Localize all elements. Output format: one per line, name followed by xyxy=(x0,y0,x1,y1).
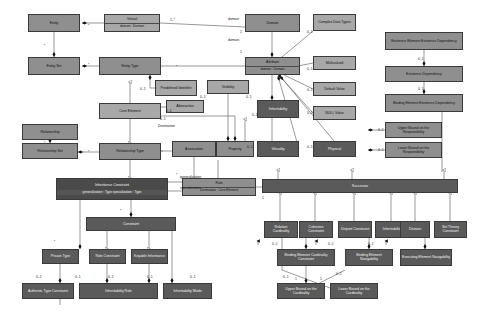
multiplicity-label: 0..1 xyxy=(140,87,146,91)
class-node-title: Inheritance Constraint xyxy=(57,183,167,188)
class-node-set-theory-constraint[interactable]: Set Theory Constraint xyxy=(434,221,467,238)
class-node-physical[interactable]: Physical xyxy=(313,141,356,157)
class-node-core-element[interactable]: Core Element xyxy=(99,103,161,119)
class-node-title: Cohesion Constraint xyxy=(300,225,332,234)
multiplicity-label: 0..1 xyxy=(272,242,278,246)
class-node-association[interactable]: Association xyxy=(172,141,216,157)
class-node-visibility[interactable]: Visibility xyxy=(207,80,249,94)
class-node-virtual[interactable]: Virtualdomain : Domain xyxy=(104,14,160,32)
class-node-multivalued[interactable]: Multivalued xyxy=(313,56,356,70)
class-node-default-value[interactable]: Default Value xyxy=(313,82,356,96)
class-node-title: Division xyxy=(401,227,429,232)
multiplicity-label: 0..1 xyxy=(307,88,313,92)
class-node-title: Relationship xyxy=(23,130,77,135)
multiplicity-label: 0..1 xyxy=(252,113,258,117)
class-node-complex-data-types[interactable]: Complex Data Types xyxy=(313,14,356,31)
class-node-title: Lower Bound on the Responsibility xyxy=(386,146,441,155)
edge-role-label: specialization xyxy=(180,186,200,190)
multiplicity-label: * xyxy=(54,240,55,244)
class-node-entity[interactable]: Entity xyxy=(28,14,80,32)
multiplicity-label: 0..1 xyxy=(247,145,253,149)
edge-role-label: domain xyxy=(228,38,239,42)
class-node-title: Entity Set xyxy=(29,64,79,69)
class-node-null-value[interactable]: NULL Value xyxy=(313,106,356,120)
class-node-relationship-type[interactable]: Relationship Type xyxy=(99,143,161,160)
class-node-relation-cardinality[interactable]: Relation Cardinality xyxy=(264,221,298,238)
class-node-binding-element-existence-dependency[interactable]: Binding Element Existence Dependency xyxy=(385,94,463,112)
class-node-title: Rule xyxy=(183,181,255,186)
multiplicity-label: 0..1 xyxy=(307,67,313,71)
class-node-title: Entity Type xyxy=(100,64,160,69)
class-node-title: Attribute xyxy=(246,60,299,65)
class-node-inheritability-role[interactable]: Inheritability Role xyxy=(79,283,158,299)
class-node-title: NULL Value xyxy=(314,111,355,116)
class-node-successor[interactable]: Successor xyxy=(262,179,458,193)
class-node-predefined-identifier[interactable]: Predefined Identifier xyxy=(155,80,197,96)
multiplicity-label: 1 xyxy=(240,50,242,54)
class-node-relationship-set[interactable]: Relationship Set xyxy=(22,143,78,159)
edge-role-label: domain xyxy=(228,17,239,21)
class-node-property[interactable]: Property xyxy=(216,141,254,157)
class-node-title: Successor xyxy=(263,184,457,189)
class-node-inheritability-1[interactable]: Inheritability xyxy=(257,100,299,118)
class-node-attribute[interactable]: Attributedomain : Domain xyxy=(245,57,300,75)
multiplicity-label: * xyxy=(120,209,121,213)
class-node-title: Keyable Inheritance xyxy=(132,254,167,259)
class-node-title: Binding Element Cardinality Constraint xyxy=(278,253,334,262)
multiplicity-label: 0..1 xyxy=(190,275,196,279)
class-node-lower-bound-cardinality[interactable]: Lower Bound on the Cardinality xyxy=(330,283,378,299)
multiplicity-label: * xyxy=(176,65,177,69)
class-node-title: Domain xyxy=(246,21,299,26)
class-node-constraint[interactable]: Constraint xyxy=(86,217,176,231)
class-node-upper-bound-cardinality[interactable]: Upper Bound on the Cardinality xyxy=(277,283,325,299)
class-node-existence-element-existence-dependency[interactable]: Existence Element Existence Dependency xyxy=(385,32,463,50)
class-node-inheritability-mode[interactable]: Inheritability Mode xyxy=(163,283,212,299)
class-node-disjoint-constraint[interactable]: Disjoint Constraint xyxy=(338,221,372,238)
multiplicity-label: 0..1 xyxy=(418,57,424,61)
class-node-entity-set[interactable]: Entity Set xyxy=(28,57,80,75)
class-node-authentic-type-constraint[interactable]: Authentic Type Constraint xyxy=(22,283,74,299)
class-node-binding-element-navigability[interactable]: Binding Element Navigability xyxy=(345,249,393,266)
class-node-title: Virtual xyxy=(105,17,159,22)
class-node-attributes: domain : Domain xyxy=(105,23,159,29)
class-node-title: Upper Bound on the Responsibility xyxy=(386,126,441,135)
class-node-title: Binding Element Existence Dependency xyxy=(386,101,462,106)
multiplicity-label: 0..1 xyxy=(418,87,424,91)
multiplicity-label: 0..1 xyxy=(328,242,334,246)
multiplicity-label: 1 xyxy=(295,277,297,281)
class-node-title: Visibility xyxy=(208,85,248,90)
multiplicity-label: 0..1 xyxy=(283,275,289,279)
multiplicity-label: 0..1 xyxy=(307,30,313,34)
multiplicity-label: 0..1 xyxy=(147,275,153,279)
class-node-keyable-inheritance[interactable]: Keyable Inheritance xyxy=(131,249,168,264)
class-node-title: Role Constraint xyxy=(90,254,125,259)
class-node-executing-element-navigability[interactable]: Executing Element Navigability xyxy=(400,249,452,266)
multiplicity-label: 0..1 xyxy=(75,275,81,279)
multiplicity-label: 0..1 xyxy=(246,95,252,99)
class-node-title: Inheritability Mode xyxy=(164,289,211,294)
class-node-division[interactable]: Division xyxy=(400,221,430,238)
multiplicity-label: 1 xyxy=(262,196,264,200)
multiplicity-label: 0..1 xyxy=(108,275,114,279)
class-node-title: Relationship Type xyxy=(100,149,160,154)
class-node-private-type[interactable]: Private Type xyxy=(42,249,79,264)
class-node-relationship[interactable]: Relationship xyxy=(22,124,78,140)
class-node-upper-bound-responsibility[interactable]: Upper Bound on the Responsibility xyxy=(385,122,442,138)
class-node-title: Private Type xyxy=(43,254,78,259)
class-node-inheritance-constraint[interactable]: Inheritance Constraintgeneralization : T… xyxy=(56,178,168,200)
class-node-lower-bound-responsibility[interactable]: Lower Bound on the Responsibility xyxy=(385,142,442,158)
class-node-virtuality[interactable]: Virtuality xyxy=(257,141,299,157)
class-node-cohesion-constraint[interactable]: Cohesion Constraint xyxy=(299,221,333,238)
multiplicity-label: 0..1 xyxy=(160,117,166,121)
class-node-domain[interactable]: Domain xyxy=(245,14,300,32)
class-node-existence-dependency[interactable]: Existence Dependency xyxy=(385,66,463,82)
class-node-title: Existence Dependency xyxy=(386,72,462,77)
class-node-title: Authentic Type Constraint xyxy=(23,289,73,294)
class-node-entity-type[interactable]: Entity Type xyxy=(99,57,161,75)
multiplicity-label: 0..1 xyxy=(166,109,172,113)
multiplicity-label: 0..1 xyxy=(307,145,313,149)
class-node-role-constraint[interactable]: Role Constraint xyxy=(89,249,126,264)
class-node-title: Set Theory Constraint xyxy=(435,225,466,234)
class-node-binding-element-cardinality-constraint[interactable]: Binding Element Cardinality Constraint xyxy=(277,249,335,266)
class-node-title: Lower Bound on the Cardinality xyxy=(331,287,377,296)
